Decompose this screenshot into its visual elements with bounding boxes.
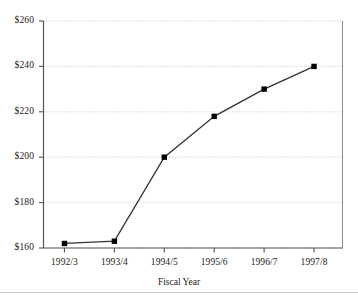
y-tick-marks-group <box>39 21 44 248</box>
series-markers-value <box>62 64 317 246</box>
x-axis-title: Fiscal Year <box>0 277 358 287</box>
axes-group <box>44 21 344 248</box>
data-point-marker <box>162 155 167 160</box>
data-point-marker <box>311 64 316 69</box>
y-tick-label: $220 <box>0 106 34 116</box>
y-tick-label: $200 <box>0 151 34 161</box>
chart-figure: $160$180$200$220$240$260 1992/31993/4199… <box>0 0 358 300</box>
data-series-group <box>62 64 317 246</box>
x-tick-marks-group <box>64 248 314 253</box>
data-point-marker <box>212 114 217 119</box>
y-tick-label: $260 <box>0 15 34 25</box>
y-tick-label: $160 <box>0 242 34 252</box>
data-point-marker <box>261 86 266 91</box>
data-point-marker <box>112 238 117 243</box>
data-point-marker <box>62 241 67 246</box>
series-line-value <box>64 66 314 243</box>
x-tick-label: 1997/8 <box>284 257 344 267</box>
gridlines-group <box>44 21 344 248</box>
y-tick-label: $240 <box>0 60 34 70</box>
bottom-divider <box>0 292 358 293</box>
y-tick-label: $180 <box>0 197 34 207</box>
line-chart-canvas <box>0 0 358 300</box>
